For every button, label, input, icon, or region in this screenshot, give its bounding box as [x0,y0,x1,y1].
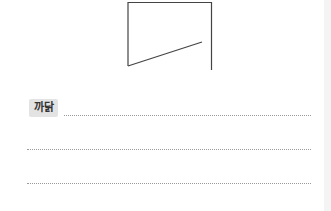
shape-outline [128,3,212,71]
answer-line-3[interactable] [27,183,311,184]
reason-label-badge: 까닭 [29,99,58,117]
shape-figure [0,0,331,80]
reason-label: 까닭 [29,99,58,117]
answer-line-1[interactable] [64,115,311,116]
shape-diagonal [128,42,202,66]
answer-line-2[interactable] [27,149,311,150]
